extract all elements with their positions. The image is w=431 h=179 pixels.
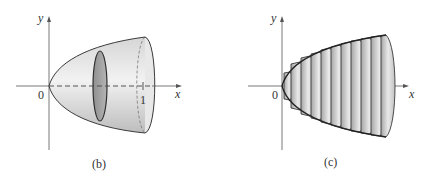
- origin-label: 0: [38, 88, 44, 102]
- x-axis-label: x: [174, 87, 181, 101]
- origin-label: 0: [272, 88, 278, 102]
- diagram-canvas: y x 0 1 (b) y x 0 (c): [0, 0, 431, 179]
- y-axis-label: y: [270, 11, 277, 25]
- solid-end-cap: [145, 37, 155, 133]
- figure-b: y x 0 1 (b): [16, 11, 182, 171]
- figure-c: y x 0 (c): [248, 11, 415, 169]
- disk-stack: [284, 35, 395, 137]
- y-axis-arrow-icon: [280, 16, 284, 22]
- caption-c: (c): [324, 155, 337, 169]
- y-axis-label: y: [37, 11, 44, 25]
- y-axis-arrow-icon: [47, 16, 51, 22]
- caption-b: (b): [92, 157, 106, 171]
- tick-label-1: 1: [140, 93, 146, 107]
- x-axis-label: x: [408, 87, 415, 101]
